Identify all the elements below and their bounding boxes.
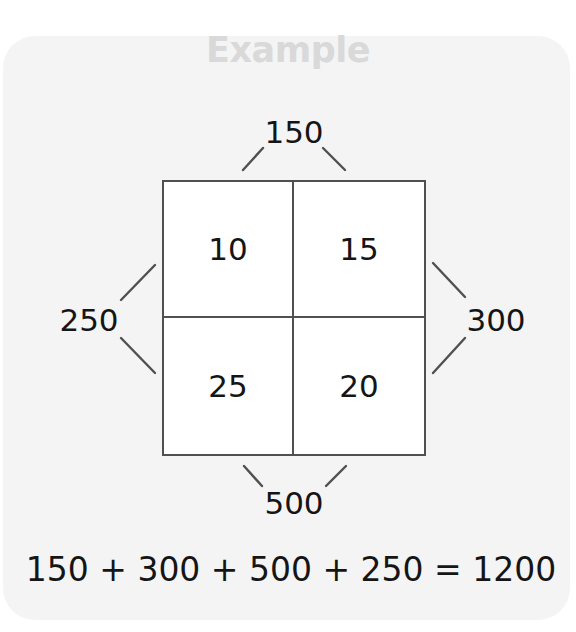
- grid-cell-top-right: 15: [294, 182, 424, 318]
- grid-cell-top-left: 10: [164, 182, 294, 318]
- two-by-two-grid: 10 15 25 20: [162, 180, 426, 456]
- edge-label-right: 300: [461, 302, 531, 338]
- edge-label-left: 250: [54, 302, 124, 338]
- grid-cell-bottom-left: 25: [164, 318, 294, 454]
- title: Example: [0, 28, 576, 72]
- sum-equation: 150 + 300 + 500 + 250 = 1200: [0, 550, 576, 590]
- edge-label-top: 150: [259, 114, 329, 150]
- grid-cell-bottom-right: 20: [294, 318, 424, 454]
- edge-label-bottom: 500: [259, 485, 329, 521]
